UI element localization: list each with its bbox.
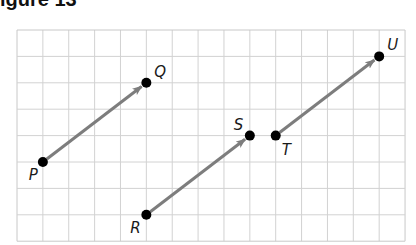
- vector-grid-diagram: PQRSTU: [0, 0, 416, 245]
- point-t: [271, 131, 281, 141]
- point-label-s: S: [234, 116, 244, 134]
- point-label-r: R: [130, 219, 140, 237]
- point-u: [374, 51, 384, 61]
- point-label-p: P: [29, 166, 39, 184]
- point-label-t: T: [282, 141, 293, 159]
- point-s: [245, 131, 255, 141]
- point-label-u: U: [387, 36, 398, 54]
- points: PQRSTU: [29, 36, 398, 236]
- point-p: [38, 157, 48, 167]
- point-q: [141, 78, 151, 88]
- point-label-q: Q: [154, 63, 166, 81]
- point-r: [141, 210, 151, 220]
